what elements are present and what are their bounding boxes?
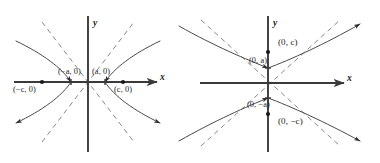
curve-right-branch-upper-left-panel: [105, 41, 160, 82]
vertex-label-right-left-panel: (a, 0): [92, 68, 110, 76]
focus-label-top-right-panel: (0, c): [278, 38, 298, 47]
focus-point-left-left-panel: [40, 80, 44, 84]
y-axis-label-right-panel: y: [273, 18, 277, 28]
focus-point-right-left-panel: [121, 80, 125, 84]
x-axis-label-left-panel: x: [160, 72, 165, 82]
focus-point-bottom-right-panel: [266, 112, 270, 116]
right-panel-group: [179, 16, 360, 152]
hyperbola-figure: y x (−c, 0) (c, 0) (−a, 0) (a, 0) y x (0…: [0, 0, 380, 163]
focus-label-right-left-panel: (c, 0): [114, 86, 132, 94]
vertex-label-top-right-panel: (0, a): [249, 57, 267, 65]
x-axis-label-right-panel: x: [347, 73, 352, 83]
y-axis-label-left-panel: y: [93, 18, 97, 28]
vertex-label-left-left-panel: (−a, 0): [58, 68, 81, 76]
focus-label-left-left-panel: (−c, 0): [13, 86, 36, 94]
focus-point-top-right-panel: [266, 50, 270, 54]
vertex-label-bottom-right-panel: (0, −a): [247, 101, 270, 109]
left-panel-group: [14, 16, 160, 152]
focus-label-bottom-right-panel: (0, −c): [278, 117, 303, 126]
hyperbola-diagram-svg: [0, 0, 380, 163]
